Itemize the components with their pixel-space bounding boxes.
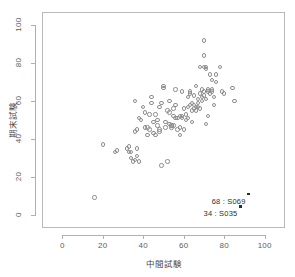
y-tick-mark [31, 63, 36, 64]
data-point [232, 99, 236, 103]
data-point [167, 99, 171, 103]
x-tick-label: 60 [179, 241, 189, 250]
y-tick-mark [31, 25, 36, 26]
data-point [208, 72, 212, 76]
data-point [214, 72, 218, 76]
data-point [171, 106, 175, 110]
data-point [92, 195, 96, 199]
x-tick-mark [224, 235, 225, 239]
data-point [149, 95, 153, 99]
data-point [127, 144, 131, 148]
data-point [198, 106, 202, 110]
x-tick-mark [143, 235, 144, 239]
data-point [173, 103, 177, 107]
x-tick-mark [103, 235, 104, 239]
data-point [149, 101, 153, 105]
data-point [161, 84, 165, 88]
x-tick-mark [184, 235, 185, 239]
data-point [173, 87, 177, 91]
data-point [190, 120, 194, 124]
data-point [202, 38, 206, 42]
x-tick-label: 80 [220, 241, 230, 250]
data-point [165, 159, 169, 163]
data-point [180, 89, 184, 93]
point-annotation-label: 34 : S035 [204, 209, 238, 218]
data-point [210, 89, 214, 93]
data-point [145, 133, 149, 137]
x-tick-label: 20 [98, 241, 108, 250]
y-axis-title: 期末試験 [6, 90, 18, 150]
x-tick-label: 40 [139, 241, 149, 250]
data-point [182, 127, 186, 131]
data-point [133, 129, 137, 133]
x-axis-title: 中間試験 [146, 257, 182, 269]
y-tick-mark [31, 139, 36, 140]
data-point [202, 53, 206, 57]
x-axis-line [62, 235, 265, 236]
y-tick-label: 100 [14, 14, 23, 36]
data-point [115, 148, 119, 152]
y-tick-mark [31, 177, 36, 178]
highlighted-data-point [247, 193, 250, 196]
y-tick-label: 80 [14, 52, 23, 74]
data-point [153, 133, 157, 137]
x-tick-mark [62, 235, 63, 239]
data-point [147, 112, 151, 116]
data-point [230, 86, 234, 90]
data-point [157, 129, 161, 133]
x-tick-mark [265, 235, 266, 239]
highlighted-data-point [239, 205, 242, 208]
y-tick-label: 20 [14, 165, 23, 187]
y-axis-line [35, 25, 36, 214]
data-point [163, 125, 167, 129]
data-point [135, 146, 139, 150]
y-tick-label: 0 [14, 203, 23, 225]
x-tick-label: 100 [258, 241, 272, 250]
y-tick-mark [31, 215, 36, 216]
data-point [153, 112, 157, 116]
data-point [159, 163, 163, 167]
data-point [155, 118, 159, 122]
data-point [157, 105, 161, 109]
scatter-plot-figure: 020406080100020406080100 68 : S06934 : S… [0, 0, 295, 277]
x-tick-label: 0 [60, 241, 65, 250]
data-point [101, 142, 105, 146]
y-tick-mark [31, 101, 36, 102]
